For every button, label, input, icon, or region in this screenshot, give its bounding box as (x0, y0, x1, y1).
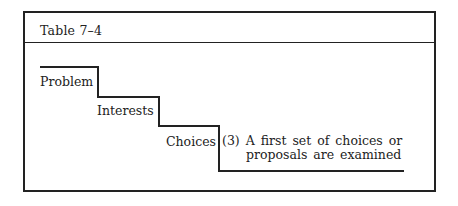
step-label-choices: Choices (166, 134, 216, 149)
table-title: Table 7–4 (40, 23, 102, 38)
description-line-1: A first set of choices or (246, 133, 403, 148)
step-line (218, 125, 220, 171)
step-line (97, 96, 159, 98)
table-frame (23, 11, 436, 192)
step-description: (3) A first set of choices or proposals … (222, 134, 402, 162)
step-line (40, 66, 99, 68)
description-line-2: proposals are examined (246, 147, 401, 162)
step-number: (3) (222, 133, 240, 148)
step-label-problem: Problem (40, 74, 93, 89)
header-divider (23, 42, 436, 43)
step-line (97, 66, 99, 97)
step-line (218, 170, 404, 172)
step-line (158, 125, 220, 127)
step-label-interests: Interests (97, 103, 154, 118)
step-line (158, 96, 160, 126)
